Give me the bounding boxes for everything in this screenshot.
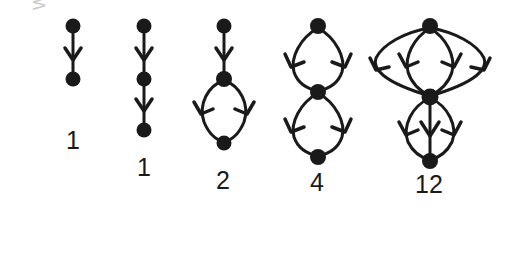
graph-2 [136,19,152,138]
node [217,136,232,151]
arrowhead [471,58,490,70]
graph-4-count-label: 4 [310,170,324,195]
arrowhead [370,58,389,70]
edge [293,28,318,91]
node [216,71,232,87]
graph-2-count-label: 1 [137,155,151,180]
node [66,19,81,34]
graph-5 [370,18,490,169]
node [66,72,81,87]
edge [318,93,343,156]
graph-1-count-label: 1 [66,128,80,153]
edge [318,28,343,91]
node [422,18,438,34]
node [310,149,326,165]
node [310,18,326,34]
graph-5-count-label: 12 [415,172,443,197]
node [137,72,152,87]
figure-root: WVWWW12 [0,0,531,267]
node [422,153,438,169]
node [137,19,152,34]
node [310,84,326,100]
edge [293,93,318,156]
node [217,19,232,34]
graph-3 [194,19,254,151]
graph-3-count-label: 2 [216,168,230,193]
graph-4 [285,18,351,165]
node [422,89,439,106]
graph-1 [65,19,81,87]
node [137,123,152,138]
